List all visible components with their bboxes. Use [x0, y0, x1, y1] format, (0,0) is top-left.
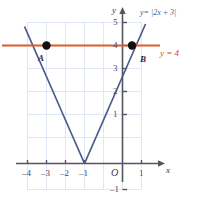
- x-tick-label-minus3: –3: [41, 169, 50, 178]
- x-tick-label-minus1: –1: [79, 169, 88, 178]
- x-tick-label-minus2: –2: [60, 169, 69, 178]
- x-tick-label-minus4: –4: [22, 169, 31, 178]
- y-tick-label-4: 4: [113, 41, 118, 50]
- equation-absolute-value-label: y= |2x + 3|: [140, 9, 176, 17]
- point-b-label: B: [140, 55, 146, 64]
- point-a-marker: [42, 41, 50, 49]
- y-tick-label-1: 1: [113, 110, 118, 119]
- y-tick-label-minus1: –1: [110, 185, 119, 194]
- x-axis-label: x: [166, 166, 170, 175]
- point-a-label: A: [38, 54, 44, 63]
- x-tick-label-1: 1: [139, 169, 144, 178]
- y-tick-label-5: 5: [113, 18, 118, 27]
- y-tick-label-3: 3: [113, 64, 118, 73]
- y-tick-label-2: 2: [113, 87, 118, 96]
- equation-horizontal-line-label: y = 4: [160, 49, 179, 58]
- point-b-marker: [128, 41, 136, 49]
- y-axis-label: y: [112, 6, 116, 15]
- origin-label: O: [111, 168, 118, 178]
